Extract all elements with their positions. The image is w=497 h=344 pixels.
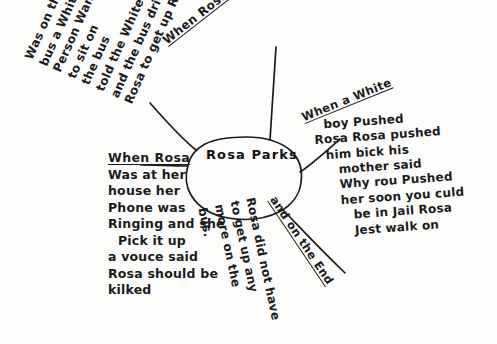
branch-white-boy-body: boy Pushed Rosa Rosa pushed him bick his…: [313, 108, 467, 241]
branch-phone-heading: When Rosa: [108, 150, 225, 167]
branch-phone-line-8: kilked: [108, 282, 225, 299]
branch-end-body: Rosa did not have to get up any more on …: [195, 196, 284, 332]
branch-line-bus: [150, 103, 196, 150]
branch-phone-line-2: house her: [108, 183, 225, 200]
branch-line-top-stem: [270, 47, 276, 140]
mind-map-canvas: Rosa Parks When Rosa Was on the bus a Wh…: [0, 0, 497, 344]
branch-phone-line-1: Was at her: [108, 167, 225, 184]
